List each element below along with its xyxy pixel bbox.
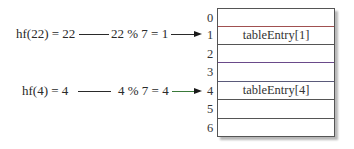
connector-line-22-b bbox=[171, 34, 195, 35]
table-row bbox=[218, 63, 334, 82]
table-index-3: 3 bbox=[205, 66, 215, 78]
table-row bbox=[218, 9, 334, 27]
connector-line-22-a bbox=[79, 34, 109, 35]
table-index-2: 2 bbox=[205, 48, 215, 60]
table-index-6: 6 bbox=[205, 122, 215, 134]
modulo-expression-22: 22 % 7 = 1 bbox=[111, 27, 168, 40]
hash-table: tableEntry[1] tableEntry[4] bbox=[217, 8, 335, 137]
hash-expression-22: hf(22) = 22 bbox=[16, 27, 75, 40]
connector-line-4-a bbox=[78, 91, 111, 92]
table-index-1: 1 bbox=[205, 29, 215, 41]
table-index-5: 5 bbox=[205, 103, 215, 115]
table-row: tableEntry[1] bbox=[218, 27, 334, 45]
modulo-expression-4: 4 % 7 = 4 bbox=[118, 84, 169, 97]
table-index-4: 4 bbox=[205, 85, 215, 97]
table-row bbox=[218, 119, 334, 136]
table-index-0: 0 bbox=[205, 12, 215, 24]
arrow-right-icon bbox=[194, 31, 202, 37]
arrow-right-icon bbox=[194, 88, 202, 94]
hash-expression-4: hf(4) = 4 bbox=[22, 84, 68, 97]
table-row bbox=[218, 45, 334, 63]
table-row bbox=[218, 100, 334, 119]
table-row: tableEntry[4] bbox=[218, 82, 334, 100]
connector-line-4-b bbox=[172, 91, 195, 92]
